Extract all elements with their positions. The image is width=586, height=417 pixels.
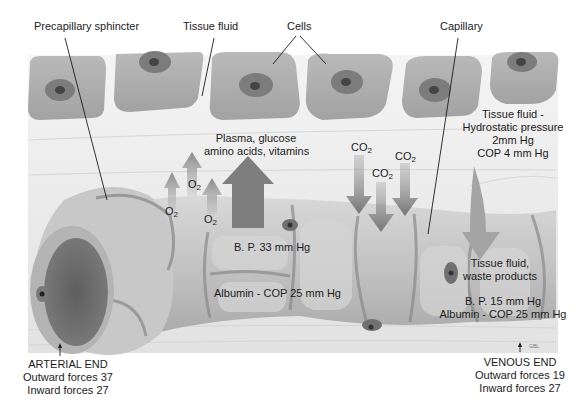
artist-signature: GBL <box>529 340 539 353</box>
arterial-opening <box>30 226 114 354</box>
label-capillary: Capillary <box>440 20 483 33</box>
label-o2: O2 <box>165 205 178 221</box>
label-o2: O2 <box>188 178 201 194</box>
label-precapillary-sphincter: Precapillary sphincter <box>34 20 139 33</box>
cell <box>114 51 203 112</box>
label-waste-products: Tissue fluid, waste products <box>460 257 540 283</box>
label-co2: CO2 <box>395 150 416 166</box>
label-co2: CO2 <box>351 141 372 157</box>
capillary-exchange-diagram: Precapillary sphincter Tissue fluid Cell… <box>0 0 586 417</box>
label-cells: Cells <box>287 20 311 33</box>
label-o2: O2 <box>204 213 217 229</box>
label-plasma-nutrients: Plasma, glucose amino acids, vitamins <box>204 132 308 158</box>
label-venous-end: VENOUS END Outward forces 19 Inward forc… <box>470 356 570 395</box>
cell <box>28 56 106 120</box>
label-co2: CO2 <box>372 167 393 183</box>
label-arterial-albumin: Albumin - COP 25 mm Hg <box>214 287 341 300</box>
label-arterial-end: ARTERIAL END Outward forces 37 Inward fo… <box>20 358 116 397</box>
label-venous-pressures: B. P. 15 mm Hg Albumin - COP 25 mm Hg <box>428 295 578 321</box>
illustration <box>0 0 586 417</box>
cell <box>210 52 300 120</box>
label-arterial-bp: B. P. 33 mm Hg <box>234 241 310 254</box>
label-tissue-fluid: Tissue fluid <box>183 20 238 33</box>
cell <box>490 52 558 104</box>
cell <box>306 54 393 120</box>
label-tissue-fluid-pressures: Tissue fluid - Hydrostatic pressure 2mm … <box>458 108 568 160</box>
